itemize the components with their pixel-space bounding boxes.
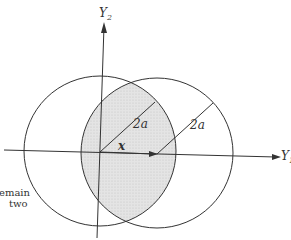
vector-x-label: x bbox=[117, 139, 126, 153]
y1-axis-arrowhead-icon bbox=[272, 154, 281, 160]
y1-axis-label: Y1 bbox=[281, 149, 291, 165]
overlap-diagram: 2a 2a x Y2 Y1 bbox=[0, 0, 291, 240]
caption-line-2: two bbox=[9, 198, 28, 209]
y2-axis-label: Y2 bbox=[99, 6, 112, 22]
caption-line-1: emain bbox=[0, 187, 30, 198]
right-radius-label: 2a bbox=[189, 118, 205, 132]
y2-axis-arrowhead-icon bbox=[101, 22, 107, 33]
left-radius-label: 2a bbox=[132, 117, 148, 131]
